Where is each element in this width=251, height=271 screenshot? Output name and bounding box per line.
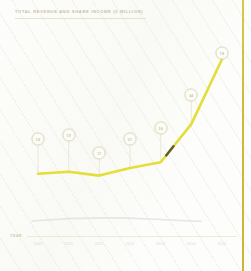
data-point-value: 24	[159, 126, 163, 130]
data-point-bubble[interactable]: 21	[124, 133, 137, 146]
x-axis-tick: 2012	[126, 242, 135, 246]
data-point-value: 19	[67, 133, 71, 137]
data-point-value: 44	[189, 93, 193, 97]
data-point-bubble[interactable]: 19	[62, 129, 75, 142]
x-axis-tick: 2010	[64, 242, 73, 246]
line-accent-marker	[166, 146, 173, 155]
data-point-value: 18	[36, 137, 40, 141]
x-axis-tick: 2013	[156, 242, 165, 246]
data-point-bubble[interactable]: 17	[93, 147, 106, 160]
x-axis-tick: 2015	[218, 242, 227, 246]
data-point-bubble[interactable]: 44	[185, 89, 198, 102]
data-point-value: 21	[128, 137, 132, 141]
data-point-bubble[interactable]: 24	[154, 122, 167, 135]
chart-page: TOTAL REVENUE AND SHARE INCOME (€ MILLIO…	[0, 0, 251, 271]
data-point-value: 78	[220, 51, 224, 55]
data-point-bubble[interactable]: 78	[216, 47, 229, 60]
data-point-value: 17	[97, 151, 101, 155]
x-axis-title: YEAR	[10, 234, 22, 238]
curve-shadow	[32, 218, 201, 221]
x-axis-tick: 2014	[187, 242, 196, 246]
x-axis-tick: 2011	[95, 242, 104, 246]
x-axis-tick: 2009	[34, 242, 43, 246]
data-point-bubble[interactable]: 18	[32, 133, 45, 146]
